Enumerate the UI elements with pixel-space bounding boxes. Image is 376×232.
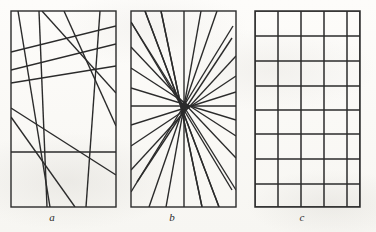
panel-c-grid-lines xyxy=(0,0,376,232)
panel-c-caption: c xyxy=(287,212,317,223)
panel-b-caption: b xyxy=(157,212,187,223)
panel-a-caption: a xyxy=(37,212,67,223)
panel-c-grid-group xyxy=(255,11,360,207)
panel-c-frame xyxy=(255,11,360,207)
figure-page: a b c xyxy=(0,0,376,232)
